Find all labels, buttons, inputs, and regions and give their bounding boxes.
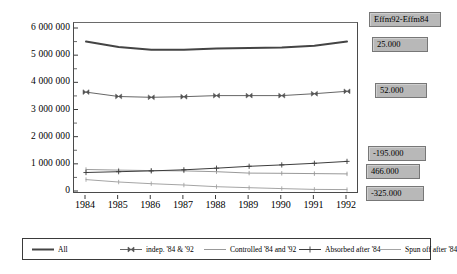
value-box-header: Effm92-Effm84 <box>369 12 441 27</box>
legend-label: Controlled '84 and '92 <box>230 244 296 254</box>
x-axis-tick-label: 1985 <box>101 199 135 211</box>
plot-area <box>73 22 358 193</box>
series-0 <box>86 42 347 50</box>
y-axis-tick-label: 1 000 000 <box>31 158 70 168</box>
value-box: 466.000 <box>366 164 420 179</box>
y-axis-tick-label: 5 000 000 <box>31 49 70 59</box>
x-axis-tick-label: 1984 <box>68 199 102 211</box>
legend-item[interactable]: Absorbed after '84 <box>298 239 381 259</box>
legend-marker-icon <box>119 245 143 254</box>
series-1 <box>83 89 350 100</box>
x-axis: 198419851986198719881989199019911992 <box>60 195 370 209</box>
legend-label: Spun off after '84 <box>405 244 457 254</box>
legend-marker-icon <box>31 245 55 254</box>
x-axis-tick-label: 1991 <box>296 199 330 211</box>
x-axis-tick-label: 1987 <box>166 199 200 211</box>
x-axis-tick-label: 1989 <box>231 199 265 211</box>
x-axis-tick-label: 1990 <box>264 199 298 211</box>
legend-marker-icon <box>378 245 402 254</box>
y-axis-tick-label: 3 000 000 <box>31 104 70 114</box>
y-axis: 6 000 0005 000 0004 000 0003 000 0002 00… <box>0 0 70 200</box>
legend-item[interactable]: Controlled '84 and '92 <box>203 239 296 259</box>
chart-legend: Allindep. '84 & '92Controlled '84 and '9… <box>22 238 431 260</box>
legend-item[interactable]: indep. '84 & '92 <box>119 239 194 259</box>
legend-label: Absorbed after '84 <box>325 244 381 254</box>
legend-label: All <box>58 244 68 254</box>
value-box: -325.000 <box>366 186 424 201</box>
y-axis-tick-label: 4 000 000 <box>31 76 70 86</box>
x-axis-tick-label: 1992 <box>329 199 363 211</box>
x-axis-tick-label: 1986 <box>133 199 167 211</box>
value-box: 25.000 <box>372 37 428 52</box>
x-axis-tick-label: 1988 <box>199 199 233 211</box>
y-axis-tick-label: 0 <box>65 185 70 195</box>
y-axis-tick-label: 6 000 000 <box>31 22 70 32</box>
legend-label: indep. '84 & '92 <box>146 244 194 254</box>
y-axis-tick-label: 2 000 000 <box>31 131 70 141</box>
legend-marker-icon <box>203 245 227 254</box>
legend-item[interactable]: Spun off after '84 <box>378 239 457 259</box>
series-4 <box>86 177 347 191</box>
value-box: -195.000 <box>368 146 426 161</box>
legend-marker-icon <box>298 245 322 254</box>
plot-svg <box>74 23 357 192</box>
legend-item[interactable]: All <box>31 239 68 259</box>
value-box: 52.000 <box>375 83 427 98</box>
